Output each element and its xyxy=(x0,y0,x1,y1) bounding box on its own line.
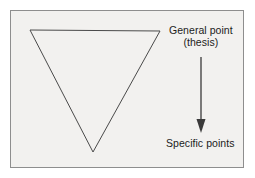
specific-points-label: Specific points xyxy=(166,137,234,149)
inverted-triangle-shape xyxy=(30,30,160,152)
downward-arrow-head xyxy=(197,119,206,133)
general-point-label-line1: General point xyxy=(169,24,233,36)
general-point-label: General point (thesis) xyxy=(169,24,233,48)
figure-container: General point (thesis) Specific points xyxy=(0,0,255,178)
general-point-label-line2: (thesis) xyxy=(169,36,233,48)
